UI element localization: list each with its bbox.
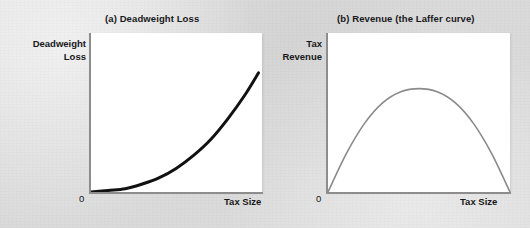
panel-b-title: (b) Revenue (the Laffer curve) — [337, 13, 475, 24]
panel-a-plot-area — [91, 33, 262, 192]
panel-a-x-axis-label: Tax Size — [224, 196, 261, 207]
figure-canvas: (a) Deadweight Loss Deadweight Loss Tax … — [0, 0, 530, 228]
panel-b-x-axis-label: Tax Size — [460, 196, 497, 207]
panel-b-y-axis-line — [326, 33, 328, 194]
panel-a-y-axis-line — [89, 33, 91, 194]
panel-a-y-axis-label: Deadweight Loss — [10, 38, 86, 63]
panel-b-x-axis-line — [326, 192, 511, 194]
panel-b-plot-area — [328, 33, 510, 192]
panel-a-x-axis-line — [89, 192, 263, 194]
panel-a-title: (a) Deadweight Loss — [105, 13, 199, 24]
panel-b-origin-label: 0 — [316, 193, 321, 204]
panel-b-y-axis-label: Tax Revenue — [250, 38, 322, 63]
panel-a-origin-label: 0 — [79, 193, 84, 204]
